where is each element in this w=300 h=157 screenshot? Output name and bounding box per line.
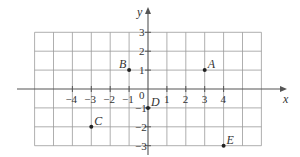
x-tick-label: −3 [84, 93, 96, 105]
x-tick-label: 3 [202, 93, 208, 105]
x-tick-label: 1 [164, 93, 170, 105]
y-tick-label: 3 [139, 26, 145, 38]
point-marker [222, 144, 226, 148]
point-marker [89, 125, 93, 129]
y-tick-label: 2 [139, 45, 145, 57]
point-label: B [119, 57, 127, 71]
x-tick-label: −4 [65, 93, 77, 105]
x-tick-label: −1 [122, 93, 134, 105]
point-marker [146, 106, 150, 110]
point-label: C [94, 114, 103, 128]
y-axis-label: y [136, 5, 143, 19]
y-tick-label: −2 [135, 121, 147, 133]
x-tick-label: 4 [221, 93, 227, 105]
point-marker [127, 68, 131, 72]
x-tick-label: −2 [103, 93, 115, 105]
y-tick-label: −3 [135, 140, 147, 152]
point-label: A [207, 57, 216, 71]
x-axis-label: x [282, 92, 289, 106]
coordinate-plane: x y 0 −4−3−2−11234321−1−2−3 ABCDE [0, 0, 300, 157]
y-tick-label: 1 [139, 64, 145, 76]
y-axis-arrow-icon [145, 7, 151, 14]
x-tick-label: 2 [183, 93, 189, 105]
point-marker [203, 68, 207, 72]
point-label: D [150, 95, 160, 109]
point-label: E [226, 133, 235, 147]
origin-label: 0 [139, 89, 145, 101]
y-tick-label: −1 [135, 102, 147, 114]
